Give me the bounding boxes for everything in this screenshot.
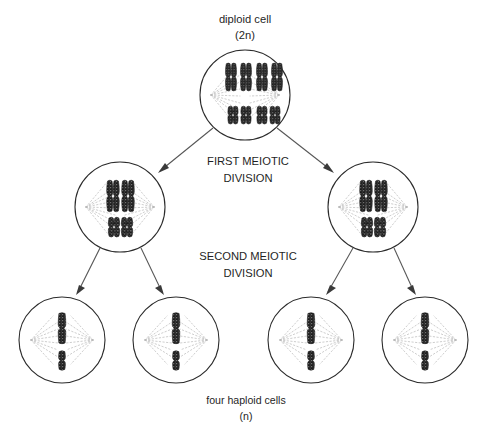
arrow-left-to-haploid-1	[76, 248, 100, 295]
arrow-parent-to-left	[158, 128, 213, 173]
cell-haploid-2	[133, 297, 219, 383]
cell-membrane-meiosis-i-left	[75, 162, 165, 252]
cell-meiosis-i-left	[75, 162, 165, 252]
cell-haploid-4	[382, 297, 468, 383]
meiosis-illustration: diploid cell (2n) FIRST MEIOTIC DIVISION…	[0, 0, 489, 433]
stage-label-first-meiotic: FIRST MEIOTIC	[207, 155, 289, 167]
cell-haploid-1	[19, 297, 105, 383]
chromosome-group-haploid-4	[421, 313, 429, 371]
arrow-left-to-haploid-2	[141, 248, 164, 295]
meiosis-diagram: diploid cell (2n) FIRST MEIOTIC DIVISION…	[0, 0, 489, 433]
cell-meiosis-i-right	[328, 162, 418, 252]
stage-label-second-meiotic: SECOND MEIOTIC	[199, 250, 297, 262]
caption-four-haploid-cells: four haploid cells	[206, 394, 286, 406]
cell-diploid-parent	[200, 50, 290, 140]
page-title-diploid-ploidy: (2n)	[235, 29, 255, 41]
caption-haploid-ploidy: (n)	[240, 410, 253, 422]
chromosome-group-haploid-1	[58, 313, 66, 371]
cell-membrane-meiosis-i-right	[328, 162, 418, 252]
stage-label-second-meiotic-line2: DIVISION	[223, 267, 272, 279]
arrow-right-to-haploid-3	[326, 248, 353, 295]
cell-haploid-3	[268, 297, 354, 383]
arrow-right-to-haploid-4	[394, 248, 416, 295]
chromosome-group-haploid-2	[172, 313, 180, 371]
page-title-diploid-cell: diploid cell	[219, 13, 271, 25]
stage-label-first-meiotic-line2: DIVISION	[223, 172, 272, 184]
chromosome-group-haploid-3	[307, 313, 315, 371]
